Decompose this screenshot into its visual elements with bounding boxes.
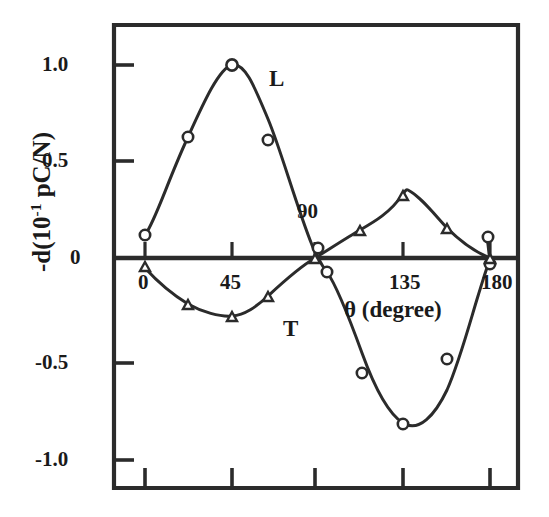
chart-figure: -d(10-1 pC/N) 1.0 0.5 0 -0.5 -1.0 0 45 9… (0, 0, 549, 517)
y-tick-label-neg-0-5: -0.5 (35, 350, 68, 375)
y-tick-label-0: 0 (70, 245, 81, 270)
x-tick-label-90: 90 (297, 199, 318, 224)
series-label-T: T (283, 316, 298, 342)
series-markers-L (140, 59, 495, 429)
x-tick-label-0: 0 (138, 270, 149, 295)
y-axis-label-prefix: -d(10 (28, 216, 55, 272)
x-tick-label-180: 180 (481, 270, 513, 295)
y-tick-label-0-5: 0.5 (42, 148, 68, 173)
x-axis-ticks-bottom (145, 468, 490, 488)
y-axis-label-exponent: -1 (27, 204, 44, 217)
series-label-L: L (269, 66, 284, 92)
y-tick-label-neg-1-0: -1.0 (35, 447, 68, 472)
x-axis-title: θ (degree) (344, 297, 442, 323)
y-tick-label-1-0: 1.0 (42, 52, 68, 77)
x-tick-label-135: 135 (389, 270, 421, 295)
y-axis-label: -d(10-1 pC/N) (28, 97, 56, 307)
x-tick-label-45: 45 (220, 270, 241, 295)
y-axis-ticks (114, 65, 134, 460)
